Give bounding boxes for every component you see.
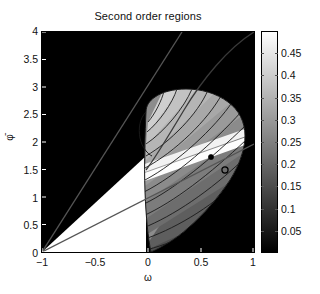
xtick-label: −1 bbox=[22, 256, 62, 268]
colorbar-label: 0.2 bbox=[281, 158, 296, 170]
xtick-label: 1 bbox=[233, 256, 273, 268]
colorbar-label: 0.45 bbox=[281, 47, 301, 59]
plot-svg bbox=[42, 32, 254, 252]
filled-marker bbox=[208, 154, 213, 159]
ytick-label: 0.5 bbox=[4, 219, 38, 231]
colorbar-label: 0.15 bbox=[281, 180, 301, 192]
chart-title: Second order regions bbox=[41, 10, 255, 22]
colorbar-label: 0.4 bbox=[281, 69, 296, 81]
data-layer bbox=[42, 32, 254, 252]
colorbar-label: 0.35 bbox=[281, 92, 301, 104]
xtick-label: −0.5 bbox=[75, 256, 115, 268]
x-axis-label: ω bbox=[41, 272, 255, 283]
figure-canvas: Second order regions bbox=[0, 0, 320, 294]
ytick-label: 1.5 bbox=[4, 164, 38, 176]
xtick-label: 0.5 bbox=[181, 256, 221, 268]
plot-area bbox=[41, 31, 255, 253]
ytick-label: 3 bbox=[4, 81, 38, 93]
ytick-label: 3.5 bbox=[4, 53, 38, 65]
colorbar bbox=[261, 31, 278, 253]
ytick-label: 1 bbox=[4, 192, 38, 204]
colorbar-label: 0.05 bbox=[281, 225, 301, 237]
ytick-label: 4 bbox=[4, 25, 38, 37]
colorbar-label: 0.3 bbox=[281, 114, 296, 126]
colorbar-label: 0.1 bbox=[281, 203, 296, 215]
colorbar-label: 0.25 bbox=[281, 136, 301, 148]
x-axis-ticks: −1 −0.5 0 0.5 1 bbox=[41, 256, 255, 272]
xtick-label: 0 bbox=[128, 256, 168, 268]
y-axis-label: φ̄ bbox=[4, 118, 15, 158]
